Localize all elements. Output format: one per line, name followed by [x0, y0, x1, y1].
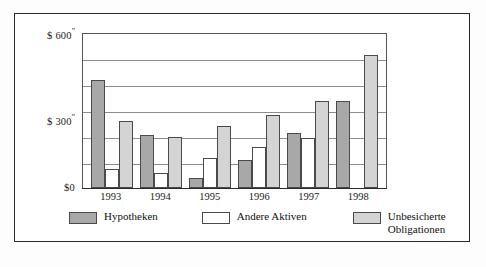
bar-1996-series0: [238, 160, 252, 188]
x-axis-labels: 199319941995199619971998: [82, 191, 387, 207]
x-axis-line: [82, 188, 387, 189]
bar-1993-series1: [105, 169, 119, 188]
plot-area: [82, 33, 387, 189]
x-tick-label-1997: 1997: [286, 191, 332, 207]
legend-label-1: Andere Aktiven: [237, 210, 307, 223]
legend-item-0[interactable]: Hypotheken: [69, 210, 158, 224]
legend-label-0: Hypotheken: [104, 210, 158, 223]
bar-groups: [83, 34, 386, 188]
bar-1996-series1: [252, 147, 266, 188]
x-tick-label-1995: 1995: [187, 191, 233, 207]
bar-1994-series2: [168, 137, 182, 188]
figure-page: $ 600" $ 300" $0 19931994199519961997199…: [0, 0, 486, 267]
bar-1994-series1: [154, 173, 168, 188]
figure-frame: $ 600" $ 300" $0 19931994199519961997199…: [14, 13, 470, 242]
y-tick-label-300: $ 300": [15, 113, 75, 127]
bar-group: [189, 34, 231, 188]
legend-item-1[interactable]: Andere Aktiven: [202, 210, 307, 224]
bar-1993-series0: [91, 80, 105, 188]
bar-group: [238, 34, 280, 188]
legend-label-2: Unbesicherte Obligationen: [388, 210, 446, 235]
bar-1998-series2: [364, 55, 378, 188]
legend-swatch-0: [69, 212, 97, 224]
x-tick-label-1996: 1996: [236, 191, 282, 207]
y-tick-label-600: $ 600": [15, 27, 75, 41]
bar-group: [91, 34, 133, 188]
bar-group: [287, 34, 329, 188]
chart-legend: HypothekenAndere AktivenUnbesicherte Obl…: [39, 210, 449, 240]
bar-1998-series0: [336, 101, 350, 188]
legend-item-2[interactable]: Unbesicherte Obligationen: [353, 210, 446, 235]
y-tick-label-0: $0: [15, 182, 75, 193]
bar-1993-series2: [119, 121, 133, 188]
bar-1996-series2: [266, 115, 280, 188]
bar-1994-series0: [140, 135, 154, 188]
bar-chart: $ 600" $ 300" $0 19931994199519961997199…: [15, 14, 471, 243]
bar-1997-series2: [315, 101, 329, 188]
x-tick-label-1994: 1994: [137, 191, 183, 207]
bar-1995-series1: [203, 158, 217, 188]
bar-1995-series2: [217, 126, 231, 188]
x-tick-label-1998: 1998: [335, 191, 381, 207]
x-tick-label-1993: 1993: [88, 191, 134, 207]
bar-group: [336, 34, 378, 188]
legend-swatch-1: [202, 212, 230, 224]
legend-swatch-2: [353, 212, 381, 224]
bar-1997-series1: [301, 138, 315, 188]
bar-group: [140, 34, 182, 188]
bar-1997-series0: [287, 133, 301, 188]
bar-1995-series0: [189, 178, 203, 188]
